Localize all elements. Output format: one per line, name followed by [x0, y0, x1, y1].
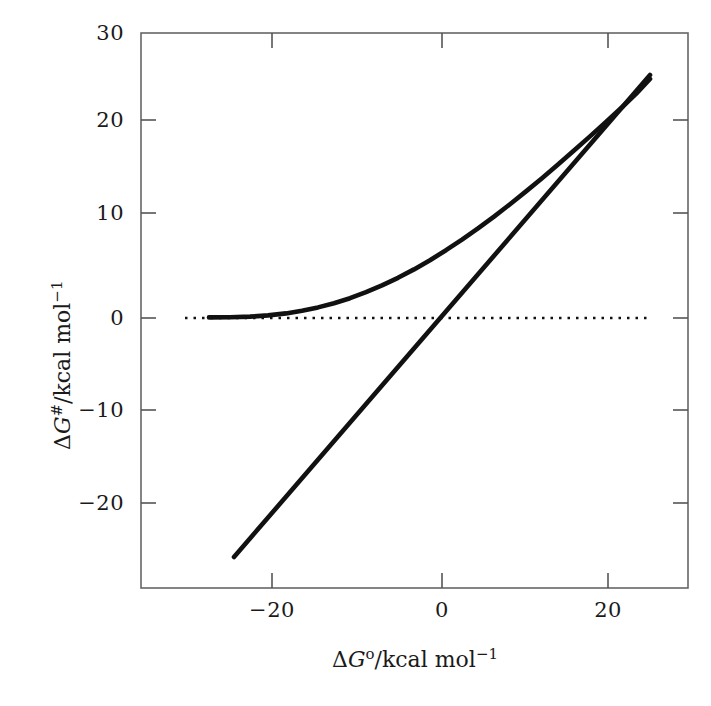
- y-tick-label-20: 20: [62, 108, 124, 132]
- y-title-delta: Δ: [50, 434, 75, 450]
- y-title-unit-superscript: −1: [48, 281, 66, 303]
- y-tick-label-minus-20: −20: [52, 491, 124, 515]
- x-tick-label-minus-20: −20: [249, 598, 295, 622]
- x-title-symbol: G: [348, 647, 366, 672]
- y-tick-label-30: 30: [62, 21, 124, 45]
- x-title-unit-superscript: −1: [476, 645, 498, 663]
- x-title-delta: Δ: [332, 647, 348, 672]
- y-title-symbol: G: [50, 417, 75, 435]
- plot-frame: [141, 33, 688, 588]
- x-tick-label-20: 20: [594, 598, 622, 622]
- y-title-superscript: #: [48, 404, 66, 417]
- x-tick-label-0: 0: [435, 598, 449, 622]
- y-title-unit: /kcal mol: [50, 303, 75, 404]
- y-tick-label-10: 10: [62, 201, 124, 225]
- x-axis-title: ΔGo/kcal mol−1: [332, 645, 498, 672]
- y-axis-title: ΔG#/kcal mol−1: [48, 281, 75, 450]
- figure-page: 30 20 10 0 −10 −20 −20 0 20 ΔG#/kcal mol…: [0, 0, 711, 706]
- x-title-unit: /kcal mol: [375, 647, 476, 672]
